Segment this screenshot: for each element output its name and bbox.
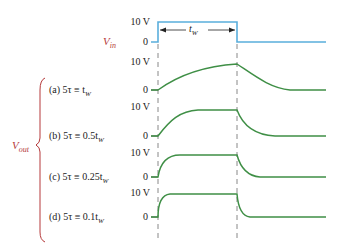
input-pulse: [151, 22, 326, 42]
case-d-top-level: 10 V: [118, 188, 150, 198]
case-c-top-level: 10 V: [118, 148, 150, 158]
output-curve-a: [151, 64, 326, 90]
case-a-label: (a) 5τ ≡ tW: [49, 85, 91, 98]
waveform-diagram: [0, 0, 341, 246]
case-a-top-level: 10 V: [118, 57, 150, 67]
case-a-zero-level: 0: [118, 85, 148, 95]
output-curve-c: [151, 155, 326, 177]
case-c-label: (c) 5τ ≡ 0.25tW: [49, 172, 108, 185]
arrowhead-left-icon: [160, 28, 166, 33]
case-d-label: (d) 5τ ≡ 0.1tW: [49, 212, 104, 225]
vout-label: Vout: [12, 140, 29, 154]
case-c-zero-level: 0: [118, 172, 148, 182]
case-b-label: (b) 5τ ≡ 0.5tW: [49, 131, 104, 144]
arrowhead-right-icon: [229, 28, 235, 33]
case-b-top-level: 10 V: [118, 102, 150, 112]
case-b-zero-level: 0: [118, 131, 148, 141]
pulse-width-label: tW: [189, 24, 198, 37]
output-curve-d: [151, 194, 326, 217]
vin-zero-level: 0: [118, 37, 148, 47]
output-curve-b: [151, 110, 326, 136]
vin-label: Vin: [103, 36, 116, 50]
case-d-zero-level: 0: [118, 212, 148, 222]
vout-brace: [36, 78, 45, 242]
vin-top-level: 10 V: [118, 17, 150, 27]
